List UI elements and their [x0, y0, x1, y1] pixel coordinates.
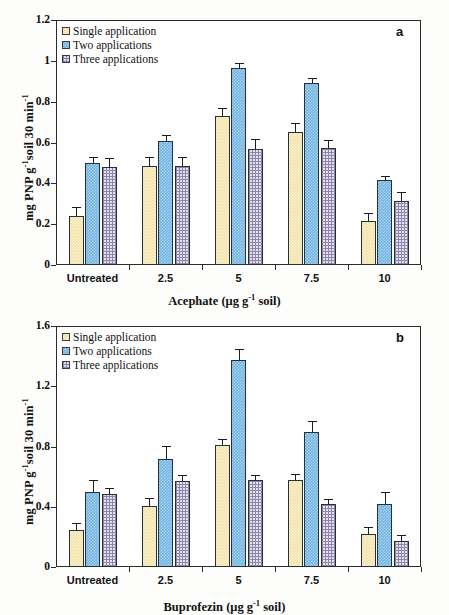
error-bar: [295, 123, 296, 132]
bar-10-series1: [361, 221, 376, 265]
panel-label-a: a: [396, 24, 403, 39]
legend-label: Three applications: [73, 53, 158, 65]
bar-2.5-series2: [158, 459, 173, 567]
x-axis-tick-label: 10: [340, 574, 430, 586]
bar-7.5-series3: [321, 148, 336, 265]
legend-swatch-icon: [62, 27, 70, 35]
y-axis-tick-label: 0: [12, 259, 50, 271]
error-bar-cap: [178, 157, 187, 158]
error-bar: [76, 523, 77, 531]
error-bar-cap: [324, 140, 333, 141]
error-bar-cap: [381, 176, 390, 177]
error-bar-cap: [89, 157, 98, 158]
error-bar-cap: [72, 523, 81, 524]
legend-item-3: Three applications: [62, 52, 158, 65]
x-axis-tick: [348, 567, 349, 572]
x-axis-tick: [275, 567, 276, 572]
bar-7.5-series3: [321, 504, 336, 567]
y-axis-tick-label: 0.8: [12, 96, 50, 108]
error-bar: [328, 140, 329, 147]
legend-swatch-icon: [62, 333, 70, 341]
error-bar-cap: [364, 213, 373, 214]
bar-2.5-series1: [142, 506, 157, 567]
x-axis-tick: [202, 567, 203, 572]
error-bar-cap: [145, 157, 154, 158]
legend-swatch-icon: [62, 55, 70, 63]
error-bar-cap: [235, 349, 244, 350]
error-bar-cap: [291, 123, 300, 124]
error-bar: [93, 480, 94, 491]
legend-item-1: Single application: [62, 330, 158, 343]
x-axis-tick: [202, 265, 203, 270]
error-bar-cap: [251, 139, 260, 140]
y-axis-tick-label: 0.8: [12, 441, 50, 453]
error-bar-cap: [251, 475, 260, 476]
error-bar: [385, 492, 386, 504]
error-bar-cap: [308, 421, 317, 422]
legend-label: Two applications: [73, 39, 152, 51]
x-axis-tick: [421, 265, 422, 270]
error-bar-cap: [72, 207, 81, 208]
bar-5-series2: [231, 68, 246, 265]
panel-a: mg PNP g-1soil 30 min-1 1.210.80.60.40.2…: [0, 0, 449, 306]
bar-untreated-series1: [69, 216, 84, 265]
error-bar-cap: [105, 488, 114, 489]
error-bar-cap: [308, 78, 317, 79]
bar-10-series2: [377, 504, 392, 567]
error-bar: [182, 157, 183, 166]
bar-untreated-series3: [102, 167, 117, 265]
error-bar-cap: [162, 135, 171, 136]
legend-item-1: Single application: [62, 24, 158, 37]
error-bar: [368, 527, 369, 534]
legend-item-2: Two applications: [62, 344, 158, 357]
bar-untreated-series3: [102, 494, 117, 567]
y-axis-tick-label: 0.4: [12, 501, 50, 513]
legend-item-2: Two applications: [62, 38, 158, 51]
panel-label-b: b: [396, 330, 404, 345]
panel-b: mg PNP g-1soil 30 min-1 1.61.20.80.40 Un…: [0, 306, 449, 612]
error-bar-cap: [145, 498, 154, 499]
y-axis-title-a: mg PNP g-1soil 30 min-1: [20, 94, 37, 221]
error-bar: [76, 207, 77, 216]
bar-10-series2: [377, 180, 392, 265]
error-bar: [368, 213, 369, 221]
legend-swatch-icon: [62, 41, 70, 49]
bar-untreated-series2: [85, 492, 100, 567]
error-bar: [166, 446, 167, 459]
y-axis-tick-label: 1.6: [12, 320, 50, 332]
legend-label: Single application: [73, 25, 156, 37]
y-axis-tick-label: 0.4: [12, 177, 50, 189]
error-bar: [312, 421, 313, 432]
bar-7.5-series2: [304, 432, 319, 567]
legend-swatch-icon: [62, 361, 70, 369]
legend-a: Single applicationTwo applicationsThree …: [62, 24, 158, 66]
bar-2.5-series2: [158, 141, 173, 265]
error-bar-cap: [235, 63, 244, 64]
bar-2.5-series1: [142, 166, 157, 265]
y-axis-tick: [51, 567, 56, 568]
error-bar: [255, 139, 256, 148]
bar-5-series3: [248, 480, 263, 567]
error-bar-cap: [218, 108, 227, 109]
bar-untreated-series2: [85, 163, 100, 265]
error-bar-cap: [178, 475, 187, 476]
bar-10-series3: [394, 201, 409, 265]
y-axis-tick-label: 1.2: [12, 14, 50, 26]
error-bar-cap: [89, 480, 98, 481]
legend-swatch-icon: [62, 347, 70, 355]
error-bar-cap: [291, 474, 300, 475]
legend-label: Single application: [73, 331, 156, 343]
bar-7.5-series1: [288, 132, 303, 265]
x-axis-tick: [275, 265, 276, 270]
error-bar-cap: [397, 535, 406, 536]
y-axis-tick-label: 0.2: [12, 218, 50, 230]
error-bar: [239, 349, 240, 360]
bar-7.5-series1: [288, 480, 303, 567]
legend-label: Two applications: [73, 345, 152, 357]
x-axis-title-b: Buprofezin (μg g-1 soil): [0, 598, 449, 615]
bar-2.5-series3: [175, 166, 190, 265]
bar-2.5-series3: [175, 481, 190, 567]
legend-item-3: Three applications: [62, 358, 158, 371]
error-bar-cap: [381, 492, 390, 493]
legend-b: Single applicationTwo applicationsThree …: [62, 330, 158, 372]
